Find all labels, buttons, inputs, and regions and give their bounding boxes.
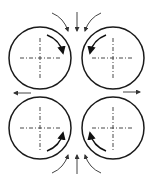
clockwise-rotation-arrow-icon: [90, 133, 106, 151]
bottom-inflow-arrows: [52, 155, 101, 174]
roll-top-right: [82, 27, 144, 89]
inflow-arrow-icon: [52, 13, 68, 31]
counterclockwise-rotation-arrow-icon: [47, 133, 63, 151]
roll-bottom-right: [82, 97, 144, 159]
roll-top-left: [9, 27, 71, 89]
counterclockwise-rotation-arrow-icon: [90, 35, 106, 53]
clockwise-rotation-arrow-icon: [47, 35, 63, 53]
roll-bottom-left: [9, 97, 71, 159]
inflow-arrow-icon: [85, 155, 101, 173]
top-inflow-arrows: [52, 12, 101, 31]
four-roll-mill-diagram: [0, 0, 151, 184]
inflow-arrow-icon: [52, 155, 68, 173]
inflow-arrow-icon: [85, 13, 101, 31]
